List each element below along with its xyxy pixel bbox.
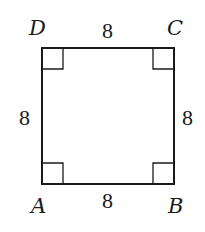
vertex-label-b: B [167, 194, 183, 218]
right-angle-marker-d [42, 48, 63, 69]
side-label-top: 8 [102, 18, 113, 43]
side-label-right: 8 [182, 105, 193, 130]
vertex-label-c: C [167, 16, 183, 40]
vertex-label-d: D [28, 16, 46, 40]
square-diagram: D C A B 8 8 8 8 [0, 0, 205, 232]
side-label-left: 8 [19, 105, 30, 130]
right-angle-marker-a [42, 163, 63, 184]
vertex-label-a: A [29, 194, 46, 218]
right-angle-marker-c [153, 48, 174, 69]
side-label-bottom: 8 [102, 188, 113, 213]
right-angle-marker-b [153, 163, 174, 184]
